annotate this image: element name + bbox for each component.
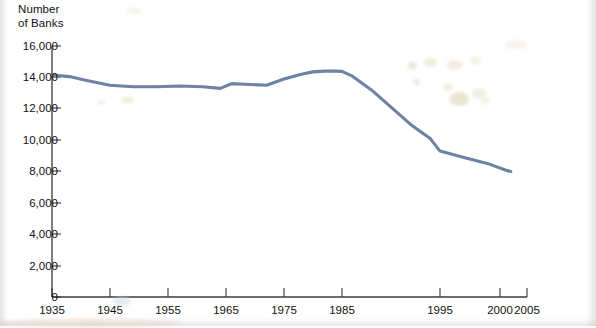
y-tick-label-12000: 12,000 — [23, 103, 58, 115]
y-tick-label-6000: 6,000 — [29, 198, 58, 210]
y-tick-label-8000: 8,000 — [29, 166, 58, 178]
y-tick-label-14000: 14,000 — [23, 72, 58, 84]
data-series-line — [52, 71, 511, 171]
x-tick-label-1965: 1965 — [204, 305, 248, 317]
y-tick-label-10000: 10,000 — [23, 135, 58, 147]
x-tick-label-1995: 1995 — [418, 305, 462, 317]
x-tick-label-2005: 2005 — [505, 305, 549, 317]
x-axis-ticks — [52, 288, 527, 297]
x-tick-label-1945: 1945 — [88, 305, 132, 317]
x-tick-label-1985: 1985 — [320, 305, 364, 317]
x-tick-label-1935: 1935 — [30, 305, 74, 317]
x-tick-label-1975: 1975 — [262, 305, 306, 317]
y-tick-label-4000: 4,000 — [29, 229, 58, 241]
y-tick-label-16000: 16,000 — [23, 41, 58, 53]
y-tick-label-0: 0 — [52, 292, 58, 304]
x-tick-label-1955: 1955 — [146, 305, 190, 317]
y-tick-label-2000: 2,000 — [29, 261, 58, 273]
